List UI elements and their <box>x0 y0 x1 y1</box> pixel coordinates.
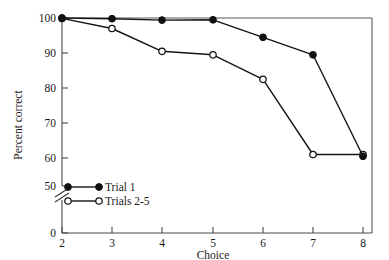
y-axis-title: Percent correct <box>12 90 24 160</box>
data-point-marker <box>260 76 266 82</box>
legend-marker-filled-circle <box>65 184 72 191</box>
data-point-marker <box>109 25 115 31</box>
x-axis-ticks <box>62 227 363 233</box>
x-tick-label-3: 3 <box>109 237 115 249</box>
x-tick-label-2: 2 <box>59 237 65 249</box>
line-chart-plot: 100 90 80 70 60 50 0 2 3 4 5 6 7 8 Choic… <box>0 0 389 260</box>
legend-label-trials-2-5: Trials 2-5 <box>105 195 150 207</box>
data-point-marker <box>310 51 317 58</box>
data-point-marker <box>159 17 166 24</box>
y-tick-label-100: 100 <box>39 12 57 24</box>
chart-legend: Trial 1 Trials 2-5 <box>65 181 150 207</box>
x-axis-title: Choice <box>197 249 230 260</box>
data-point-marker <box>310 151 316 157</box>
y-tick-label-70: 70 <box>45 117 57 129</box>
y-tick-label-90: 90 <box>45 47 57 59</box>
x-tick-label-4: 4 <box>159 237 165 249</box>
data-point-marker <box>109 15 116 22</box>
x-tick-label-6: 6 <box>260 237 266 249</box>
x-tick-label-7: 7 <box>310 237 316 249</box>
y-tick-label-80: 80 <box>45 82 57 94</box>
series-trial-1-line <box>62 18 363 156</box>
legend-marker-filled-circle <box>96 184 103 191</box>
legend-marker-open-circle <box>65 198 71 204</box>
x-tick-label-5: 5 <box>210 237 216 249</box>
legend-label-trial-1: Trial 1 <box>105 181 136 193</box>
data-point-marker <box>210 16 217 23</box>
x-tick-label-8: 8 <box>360 237 366 249</box>
series-trials-2-5-line <box>62 18 363 154</box>
chart-figure: 100 90 80 70 60 50 0 2 3 4 5 6 7 8 Choic… <box>0 0 389 260</box>
legend-entry-trial-1: Trial 1 <box>65 181 136 193</box>
series-trial-1 <box>59 15 367 160</box>
y-tick-label-50: 50 <box>45 180 57 192</box>
legend-marker-open-circle <box>96 198 102 204</box>
y-tick-label-60: 60 <box>45 152 57 164</box>
y-tick-label-0: 0 <box>50 227 56 239</box>
data-point-marker <box>360 153 367 160</box>
data-point-marker <box>210 52 216 58</box>
data-point-marker <box>260 34 267 41</box>
series-trials-2-5 <box>59 15 366 158</box>
data-point-marker <box>159 48 165 54</box>
data-point-marker <box>59 15 66 22</box>
legend-entry-trials-2-5: Trials 2-5 <box>65 195 150 207</box>
